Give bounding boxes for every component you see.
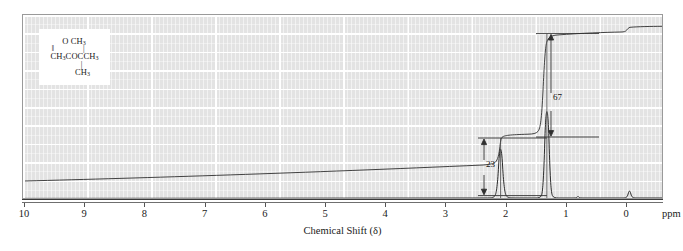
- integration-trace: [25, 26, 662, 181]
- axis-tick-label-0: 0: [623, 208, 628, 219]
- axis-tick-label-10: 10: [19, 208, 30, 219]
- axis-tick-label-7: 7: [202, 208, 207, 219]
- axis-tick-4: [385, 203, 386, 207]
- axis-tick-5: [325, 203, 326, 207]
- axis-tick-label-9: 9: [82, 208, 87, 219]
- ppm-unit-label: ppm: [662, 208, 681, 219]
- axis-tick-label-3: 3: [443, 208, 448, 219]
- axis-tick-9: [84, 203, 85, 207]
- axis-tick-label-2: 2: [503, 208, 508, 219]
- nmr-plot-area: 23 67: [22, 14, 663, 199]
- structure-line-bottom: CH3: [75, 68, 90, 77]
- axis-tick-1: [566, 203, 567, 207]
- axis-tick-2: [506, 203, 507, 207]
- axis-tick-label-8: 8: [142, 208, 147, 219]
- x-axis-title: Chemical Shift (δ): [22, 225, 663, 236]
- axis-line-secondary: [22, 202, 663, 203]
- axis-tick-label-6: 6: [262, 208, 267, 219]
- spectrum-baseline-and-peaks: [25, 112, 662, 199]
- integral-value-67: 67: [553, 92, 562, 102]
- axis-line-primary: [22, 199, 663, 200]
- integral-value-23: 23: [486, 159, 495, 169]
- structure-line-main: CH3COCCH3: [50, 52, 98, 61]
- axis-tick-7: [205, 203, 206, 207]
- axis-tick-10: [24, 203, 25, 207]
- axis-tick-8: [144, 203, 145, 207]
- axis-tick-6: [265, 203, 266, 207]
- axis-tick-label-1: 1: [563, 208, 568, 219]
- x-axis: 109876543210 ppm Chemical Shift (δ): [22, 199, 663, 251]
- axis-tick-label-5: 5: [322, 208, 327, 219]
- spectrum-traces: [23, 15, 663, 199]
- chemical-structure-inset: O CH3 ‖ | CH3COCCH3 | CH3: [39, 29, 110, 85]
- axis-tick-0: [626, 203, 627, 207]
- axis-tick-label-4: 4: [383, 208, 388, 219]
- peak-drop-lines: [501, 34, 547, 198]
- axis-tick-3: [445, 203, 446, 207]
